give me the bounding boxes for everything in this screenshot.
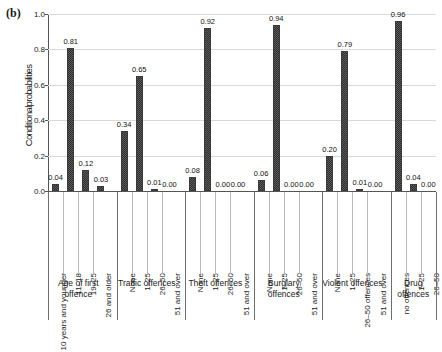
bar-value-label: 0.12 [79,159,94,168]
category-separator [284,192,285,274]
category-separator [269,192,270,274]
y-tick-mark [45,14,48,15]
bar-value-label: 0.34 [117,120,132,129]
bar [395,21,402,191]
group-separator [436,192,437,320]
bar [356,189,363,191]
category-separator [147,192,148,274]
panel-letter: (b) [6,6,21,21]
bar [258,180,265,191]
bar [97,186,104,191]
bar-value-label: 0.79 [337,40,352,49]
bar-value-label: 0.96 [391,10,406,19]
y-tick-mark [45,120,48,121]
category-separator [132,192,133,274]
y-tick-label: 0.8 [34,45,45,54]
gridline [48,49,436,50]
bar [151,189,158,191]
bar-value-label: 0.81 [63,37,78,46]
bar-value-label: 0.06 [254,169,269,178]
bar [273,25,280,191]
bar-value-label: 0.03 [94,175,109,184]
y-axis-line [48,14,49,191]
category-separator [230,192,231,274]
group-separator [322,192,323,320]
plot-area: 1.00.80.60.40.20.00.040.810.120.030.340.… [48,14,436,191]
gridline [48,85,436,86]
category-separator [63,192,64,274]
category-separator [406,192,407,274]
x-group-label: Age of first offence [48,278,109,300]
x-group-label: Burglary offences [254,278,315,300]
bar-value-label: 0.04 [406,173,421,182]
y-tick-label: 0.0 [34,187,45,196]
bar-value-label: 0.00 [162,180,177,189]
bar-value-label: 0.00 [284,180,299,189]
bar-value-label: 0.00 [368,180,383,189]
category-separator [162,192,163,274]
y-tick-label: 0.4 [34,116,45,125]
group-label-zone: Age of first offenceTraffic offencesThef… [48,276,436,320]
bar [189,177,196,191]
category-separator [200,192,201,274]
bar-value-label: 0.01 [353,178,368,187]
bar-value-label: 0.20 [322,145,337,154]
bar [52,184,59,191]
gridline [48,120,436,121]
bar-value-label: 0.00 [216,180,231,189]
bar-value-label: 0.04 [48,173,63,182]
bar-value-label: 0.00 [299,180,314,189]
y-tick-label: 0.2 [34,151,45,160]
y-tick-label: 1.0 [34,10,45,19]
bar [121,131,128,191]
gridline [48,156,436,157]
bar-value-label: 0.00 [421,180,436,189]
gridline [48,14,436,15]
category-separator [215,192,216,274]
bar [67,48,74,191]
category-separator [299,192,300,274]
group-separator [391,192,392,320]
y-axis-label: Conditionalprobabilities [23,31,34,181]
bar [341,51,348,191]
bar [82,170,89,191]
category-separator [337,192,338,274]
bar-value-label: 0.94 [269,14,284,23]
bar [136,76,143,191]
category-separator [352,192,353,274]
category-separator [367,192,368,274]
category-label-zone: 10 years and younger11–1819–2526 and old… [48,192,436,274]
x-group-label: Violent offences [322,278,383,289]
bar [204,28,211,191]
group-separator [48,192,49,320]
bar-value-label: 0.01 [147,178,162,187]
bar-value-label: 0.92 [200,17,215,26]
bar-value-label: 0.65 [132,65,147,74]
bar [410,184,417,191]
y-tick-mark [45,85,48,86]
x-group-label: Drug offences [391,278,436,300]
x-group-label: Traffic offences [117,278,178,289]
bar-value-label: 0.08 [185,166,200,175]
category-separator [93,192,94,274]
y-tick-mark [45,156,48,157]
group-separator [117,192,118,320]
category-separator [421,192,422,274]
y-tick-mark [45,49,48,50]
x-group-label: Theft offences [185,278,246,289]
bar-value-label: 0.00 [231,180,246,189]
group-separator [185,192,186,320]
bar [326,156,333,191]
group-separator [254,192,255,320]
y-tick-label: 0.6 [34,80,45,89]
category-separator [78,192,79,274]
